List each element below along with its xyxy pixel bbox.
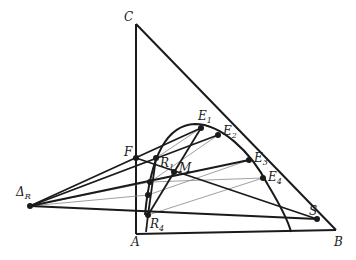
point-e2 bbox=[215, 132, 221, 138]
point-e1 bbox=[198, 125, 204, 131]
label-a: A bbox=[130, 235, 140, 249]
point-r2 bbox=[147, 179, 153, 185]
point-f bbox=[133, 155, 139, 161]
label-delta-r: ΔR bbox=[15, 185, 31, 201]
label-m: M bbox=[178, 161, 192, 175]
label-f: F bbox=[123, 145, 133, 159]
point-r1 bbox=[153, 155, 159, 161]
label-r1: R1 bbox=[159, 156, 174, 172]
label-s: S bbox=[309, 204, 317, 218]
label-c: C bbox=[124, 10, 133, 24]
label-e3: E3 bbox=[253, 151, 268, 167]
point-r3 bbox=[145, 192, 151, 198]
point-delta-r bbox=[27, 203, 33, 209]
point-e3 bbox=[246, 157, 252, 163]
label-b: B bbox=[333, 235, 343, 249]
point-e4 bbox=[260, 175, 266, 181]
label-r4: R4 bbox=[149, 217, 164, 233]
triangle bbox=[136, 24, 336, 234]
ternary-diagram: C A B F M S E1 E2 E3 E4 R1 R4 ΔR bbox=[0, 0, 356, 260]
label-e1: E1 bbox=[197, 109, 212, 125]
